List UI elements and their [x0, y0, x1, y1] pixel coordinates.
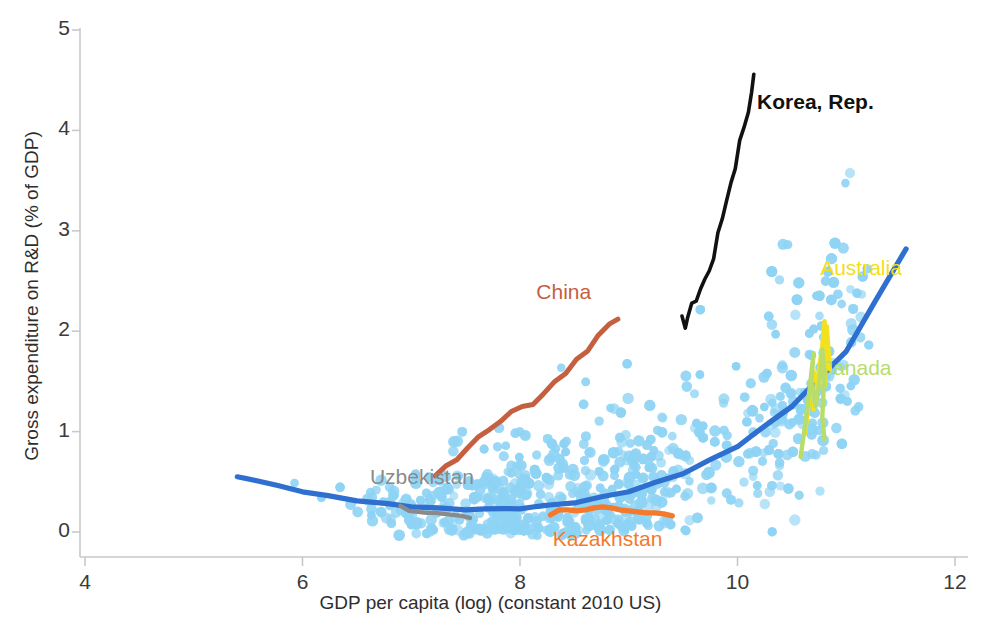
scatter-point: [784, 240, 793, 249]
scatter-point: [645, 461, 654, 470]
scatter-point: [376, 507, 387, 518]
x-axis-title: GDP per capita (log) (constant 2010 US): [0, 592, 981, 614]
scatter-point: [562, 437, 571, 446]
scatter-point: [851, 406, 861, 416]
x-tick-label: 10: [718, 570, 758, 594]
scatter-point: [864, 340, 873, 349]
scatter-point: [595, 467, 604, 476]
scatter-point: [579, 400, 589, 410]
scatter-point: [795, 491, 804, 500]
scatter-point: [673, 448, 684, 459]
scatter-point: [784, 419, 794, 429]
scatter-point: [755, 414, 764, 423]
scatter-point: [696, 305, 706, 315]
scatter-point: [843, 397, 852, 406]
scatter-point: [533, 480, 544, 491]
scatter-point: [733, 456, 744, 467]
scatter-point: [732, 362, 741, 371]
series-label-kazakhstan: Kazakhstan: [553, 527, 663, 551]
scatter-point: [682, 381, 692, 391]
scatter-point: [742, 417, 751, 426]
scatter-point: [836, 384, 845, 393]
scatter-point: [416, 496, 425, 505]
scatter-point: [388, 490, 398, 500]
scatter-point: [793, 277, 804, 288]
scatter-point: [480, 445, 489, 454]
scatter-point: [805, 329, 814, 338]
series-label-korea: Korea, Rep.: [757, 90, 874, 114]
x-tick-label: 4: [65, 570, 105, 594]
scatter-point: [422, 529, 431, 538]
y-tick-label: 3: [48, 217, 70, 241]
scatter-point: [584, 448, 593, 457]
scatter-point: [681, 371, 692, 382]
scatter-point: [542, 473, 552, 483]
scatter-point: [557, 364, 565, 372]
scatter-point: [493, 442, 502, 451]
scatter-point: [852, 289, 861, 298]
scatter-point: [709, 425, 720, 436]
scatter-point: [505, 483, 516, 494]
scatter-point: [812, 451, 821, 460]
scatter-point: [837, 438, 848, 449]
scatter-point: [696, 370, 705, 379]
scatter-point: [703, 467, 715, 479]
scatter-point: [764, 312, 774, 322]
scatter-point: [748, 466, 758, 476]
scatter-point: [848, 304, 858, 314]
scatter-point: [796, 404, 805, 413]
scatter-point: [726, 495, 736, 505]
scatter-point: [707, 496, 715, 504]
scatter-point: [765, 394, 776, 405]
scatter-point: [437, 492, 447, 502]
scatter-point: [463, 529, 473, 539]
scatter-point: [335, 483, 345, 493]
series-label-australia: Australia: [820, 256, 902, 280]
scatter-point: [387, 519, 396, 528]
scatter-point: [411, 529, 421, 539]
scatter-point: [642, 440, 652, 450]
scatter-point: [764, 445, 774, 455]
scatter-point: [762, 369, 771, 378]
scatter-point: [747, 405, 758, 416]
scatter-point: [367, 511, 376, 520]
scatter-point: [567, 464, 578, 475]
scatter-point: [668, 432, 677, 441]
x-tick-label: 8: [500, 570, 540, 594]
scatter-point: [568, 490, 576, 498]
scatter-point: [786, 370, 797, 381]
scatter-point: [581, 513, 592, 524]
scatter-point: [646, 452, 656, 462]
scatter-point: [506, 511, 517, 522]
y-tick-label: 1: [48, 418, 70, 442]
scatter-point: [753, 481, 762, 490]
scatter-point: [598, 454, 610, 466]
x-tick-label: 6: [283, 570, 323, 594]
scatter-point: [501, 522, 510, 531]
scatter-point: [760, 403, 768, 411]
scatter-chart: GDP per capita (log) (constant 2010 US) …: [0, 0, 981, 620]
scatter-point: [530, 465, 540, 475]
scatter-point: [773, 470, 783, 480]
scatter-point: [638, 472, 649, 483]
scatter-point: [290, 479, 299, 488]
scatter-point: [845, 168, 855, 178]
scatter-point: [760, 499, 771, 510]
scatter-point: [771, 330, 780, 339]
scatter-point: [515, 453, 524, 462]
scatter-point: [515, 427, 524, 436]
scatter-point: [753, 489, 762, 498]
scatter-point: [829, 238, 840, 249]
scatter-point: [723, 431, 732, 440]
scatter-point: [812, 291, 821, 300]
scatter-point: [788, 447, 799, 458]
scatter-point: [591, 514, 600, 523]
y-tick-label: 4: [48, 116, 70, 140]
scatter-point: [773, 449, 783, 459]
scatter-point: [790, 310, 800, 320]
scatter-point: [775, 458, 784, 467]
scatter-point: [606, 404, 614, 412]
scatter-point: [547, 439, 557, 449]
y-tick-label: 0: [48, 518, 70, 542]
scatter-point: [579, 482, 590, 493]
